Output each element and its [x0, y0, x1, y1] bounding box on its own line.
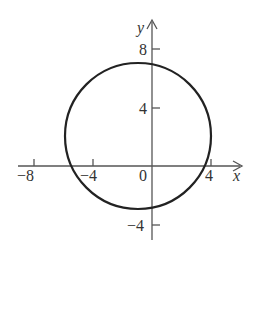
y-tick-label-neg4: −4: [127, 217, 144, 234]
x-tick-label-neg8: −8: [17, 167, 34, 184]
y-tick-label-8: 8: [139, 41, 147, 58]
coordinate-plane: −8 −4 0 4 x 8 4 −4 y: [0, 0, 256, 311]
x-axis-label: x: [232, 167, 240, 184]
origin-label: 0: [139, 167, 147, 184]
y-tick-label-4: 4: [139, 100, 147, 117]
circle-curve: [65, 63, 211, 209]
y-axis-label: y: [135, 19, 145, 37]
x-tick-label-4: 4: [205, 167, 213, 184]
x-tick-label-neg4: −4: [80, 167, 97, 184]
